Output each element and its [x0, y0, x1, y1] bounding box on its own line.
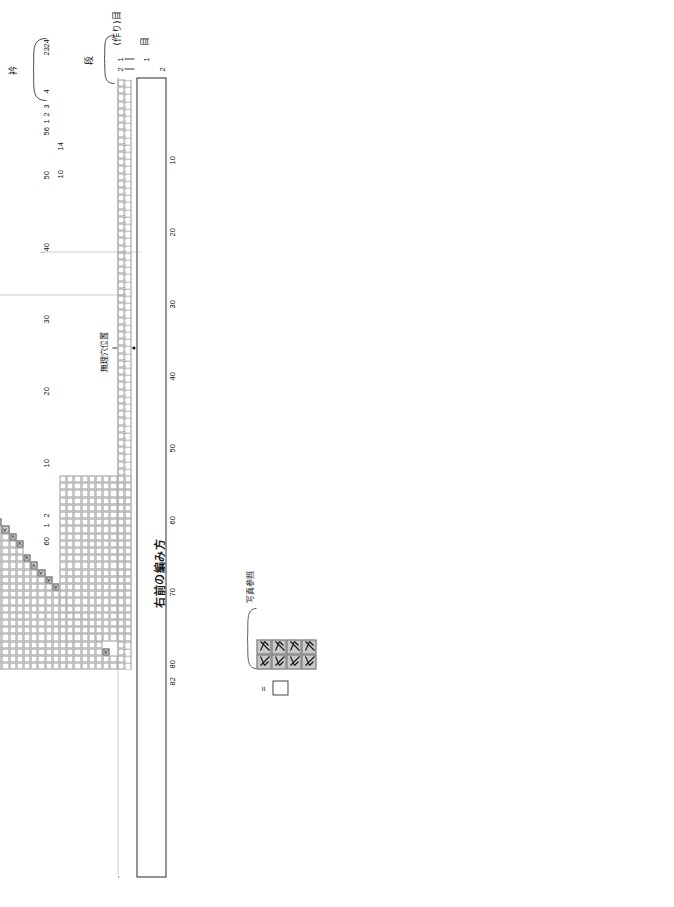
- hem-cell: [124, 576, 131, 583]
- stitch-cell: [0, 547, 1, 554]
- stitch-cell: [1, 655, 8, 662]
- stitch-cell: [102, 662, 109, 669]
- chart-canvas: 右前の編み方 衿 24 23 4 3 2 1 56 50 40 30 20 10…: [0, 0, 674, 907]
- hem-cell: [95, 518, 102, 525]
- rotated-chart-body: 右前の編み方 衿 24 23 4 3 2 1 56 50 40 30 20 10…: [0, 0, 674, 907]
- hem-cell: [95, 583, 102, 590]
- hem-cell: [73, 497, 80, 504]
- hem-cell: [59, 497, 66, 504]
- stitch-cell: [81, 641, 88, 648]
- stitch-cell: [16, 569, 23, 576]
- caston-cell: [124, 425, 131, 432]
- hem-cell: [73, 597, 80, 604]
- hem-cell: [66, 533, 73, 540]
- row-tick-1: [124, 58, 134, 59]
- hem-cell: [73, 547, 80, 554]
- hem-cell: [88, 540, 95, 547]
- cast-on-number-1: 1: [142, 57, 150, 61]
- caston-cell: [124, 295, 131, 302]
- hem-cell: [66, 511, 73, 518]
- stitch-cell: [59, 655, 66, 662]
- hem-cell: [124, 540, 131, 547]
- caston-cell: [124, 115, 131, 122]
- stitch-cell: [37, 605, 44, 612]
- stitch-cell: [66, 662, 73, 669]
- stitch-cell: [9, 590, 16, 597]
- caston-cell: [124, 158, 131, 165]
- hem-cell: [109, 504, 116, 511]
- side-number-14: 14: [56, 142, 64, 150]
- stitch-cell: [0, 619, 1, 626]
- row-tick-2: [124, 68, 134, 69]
- legend-left-decrease-3: [286, 654, 301, 669]
- caston-cell: [124, 302, 131, 309]
- stitch-cell: [0, 597, 1, 604]
- hem-cell: [81, 533, 88, 540]
- caston-cell: [124, 223, 131, 230]
- stitch-cell: [16, 619, 23, 626]
- hem-cell: [109, 475, 116, 482]
- hem-cell: [59, 626, 66, 633]
- stitch-cell: [9, 576, 16, 583]
- hem-cell: [88, 576, 95, 583]
- caston-cell: [124, 396, 131, 403]
- hem-cell: [109, 619, 116, 626]
- row-small-number-2: 2: [116, 67, 124, 71]
- stitch-cell: [52, 590, 59, 597]
- hem-cell: [109, 540, 116, 547]
- legend-brace: [240, 606, 258, 670]
- hem-cell: [109, 547, 116, 554]
- decrease-symbol: [30, 561, 37, 568]
- legend-left-decrease-4: [301, 654, 316, 669]
- stitch-number-20: 20: [42, 387, 50, 395]
- hem-cell: [81, 554, 88, 561]
- caston-cell: [124, 173, 131, 180]
- hem-cell: [102, 576, 109, 583]
- stitch-cell: [30, 648, 37, 655]
- caston-cell: [124, 439, 131, 446]
- bottom-number-70: 70: [168, 588, 176, 596]
- stitch-cell: [9, 554, 16, 561]
- hem-cell: [66, 554, 73, 561]
- stitch-number-60: 60: [42, 537, 50, 545]
- stitch-number-2b: 2: [42, 513, 50, 517]
- hem-cell: [95, 612, 102, 619]
- stitch-cell: [73, 648, 80, 655]
- hem-cell: [81, 576, 88, 583]
- stitch-cell: [52, 648, 59, 655]
- hem-cell: [81, 497, 88, 504]
- legend-right-decrease-2: [271, 639, 286, 654]
- stitch-cell: [52, 655, 59, 662]
- stitch-cell: [30, 612, 37, 619]
- hem-cell: [109, 511, 116, 518]
- hem-cell: [95, 547, 102, 554]
- hem-cell: [124, 597, 131, 604]
- stitch-cell: [30, 626, 37, 633]
- stitch-cell: [66, 648, 73, 655]
- stitch-cell: [0, 576, 1, 583]
- bottom-number-82: 82: [168, 677, 176, 685]
- hem-cell: [59, 597, 66, 604]
- stitch-cell: [37, 590, 44, 597]
- caston-cell: [124, 417, 131, 424]
- hem-cell: [81, 561, 88, 568]
- hem-cell: [102, 497, 109, 504]
- hem-cell: [124, 504, 131, 511]
- stitch-cell: [37, 626, 44, 633]
- hem-cell: [73, 533, 80, 540]
- stitch-number-4: 4: [42, 89, 50, 93]
- buttonhole-label: 無理穴位置: [100, 331, 108, 371]
- hem-cell: [109, 569, 116, 576]
- hem-cell: [81, 569, 88, 576]
- stitch-cell: [45, 619, 52, 626]
- hem-cell: [95, 590, 102, 597]
- stitch-cell: [0, 540, 1, 547]
- hem-cell: [102, 511, 109, 518]
- hem-cell: [88, 497, 95, 504]
- stitch-cell: [1, 533, 8, 540]
- bottom-number-10: 10: [168, 156, 176, 164]
- hem-cell: [88, 583, 95, 590]
- hem-cell: [109, 633, 116, 640]
- decrease-symbol: [102, 648, 109, 655]
- hem-cell: [95, 633, 102, 640]
